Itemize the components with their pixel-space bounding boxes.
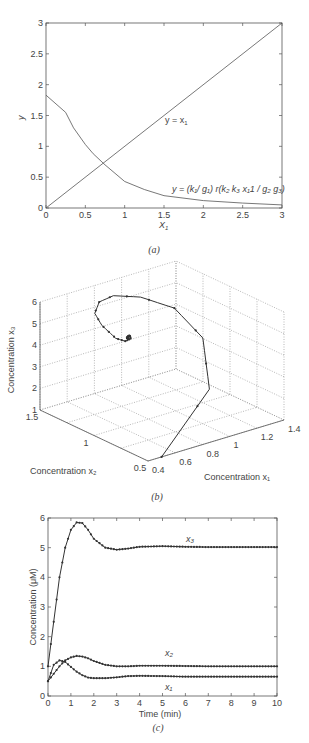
svg-text:0: 0 — [38, 203, 43, 213]
chart-c-xlabel: Time (min) — [139, 709, 182, 719]
svg-text:3: 3 — [279, 210, 284, 220]
chart-a-xlabel: X1 — [158, 220, 168, 231]
svg-text:1.4: 1.4 — [288, 424, 301, 434]
svg-text:1.2: 1.2 — [261, 432, 274, 442]
chart-c-label-x3: x₃ — [185, 534, 195, 544]
svg-text:1: 1 — [38, 141, 43, 151]
chart-c: 0123456789100123456 x₃ x₂ x₁ Concentrati… — [28, 513, 282, 734]
svg-text:0: 0 — [40, 691, 45, 701]
svg-text:0.5: 0.5 — [79, 210, 92, 220]
svg-text:0.5: 0.5 — [30, 172, 43, 182]
svg-text:5: 5 — [40, 543, 45, 553]
svg-text:0.5: 0.5 — [134, 463, 147, 473]
chart-a-caption: (a) — [148, 244, 160, 256]
chart-a-curve-label: y = (k₁/ g₁) r(k₂ k₃ x₁1 / g₂ g₃) — [171, 184, 285, 194]
svg-text:2: 2 — [201, 210, 206, 220]
svg-text:6: 6 — [32, 297, 37, 307]
svg-text:3: 3 — [38, 18, 43, 28]
chart-b-ylabel: Concentration x₂ — [30, 466, 97, 476]
svg-text:0.6: 0.6 — [179, 457, 192, 467]
svg-text:5: 5 — [160, 698, 165, 708]
svg-text:2.5: 2.5 — [30, 49, 43, 59]
svg-text:4: 4 — [137, 698, 142, 708]
svg-text:8: 8 — [229, 698, 234, 708]
svg-text:10: 10 — [272, 698, 282, 708]
chart-b-caption: (b) — [151, 491, 163, 503]
chart-b-zlabel: Concentration x₃ — [6, 326, 16, 393]
svg-text:2: 2 — [38, 80, 43, 90]
chart-c-ticks: 0123456789100123456 — [40, 513, 282, 708]
chart-a-ylabel: y — [16, 115, 26, 121]
chart-b-3d: 0.40.60.811.21.40.511.5123456 Concentrat… — [6, 261, 301, 503]
chart-b-xlabel: Concentration x₁ — [204, 472, 270, 482]
svg-text:7: 7 — [206, 698, 211, 708]
svg-text:1: 1 — [32, 405, 37, 415]
chart-b-trajectory — [95, 296, 210, 457]
svg-text:1: 1 — [83, 438, 88, 448]
svg-text:2: 2 — [91, 698, 96, 708]
svg-text:5: 5 — [32, 319, 37, 329]
svg-text:2.5: 2.5 — [236, 210, 249, 220]
chart-a: 00.511.522.5300.511.522.53 y = x1 y = (k… — [16, 18, 285, 256]
chart-a-line-label: y = x1 — [165, 115, 188, 126]
svg-text:0: 0 — [43, 210, 48, 220]
chart-c-frame — [48, 518, 277, 696]
svg-text:6: 6 — [40, 513, 45, 523]
chart-c-label-x2: x₂ — [164, 648, 174, 658]
svg-text:0.8: 0.8 — [206, 449, 219, 459]
svg-text:2: 2 — [40, 632, 45, 642]
svg-text:4: 4 — [40, 572, 45, 582]
svg-text:2: 2 — [32, 383, 37, 393]
svg-text:1.5: 1.5 — [30, 111, 43, 121]
chart-c-series — [47, 521, 278, 682]
svg-text:1: 1 — [234, 440, 239, 450]
svg-text:3: 3 — [40, 602, 45, 612]
svg-text:0.4: 0.4 — [152, 465, 165, 475]
svg-text:1: 1 — [122, 210, 127, 220]
svg-text:3: 3 — [114, 698, 119, 708]
svg-text:1.5: 1.5 — [158, 210, 171, 220]
figure-canvas: 00.511.522.5300.511.522.53 y = x1 y = (k… — [0, 0, 309, 743]
chart-c-ylabel: Concentration (μM) — [28, 568, 38, 645]
chart-a-identity-line — [46, 23, 282, 208]
svg-text:1: 1 — [40, 661, 45, 671]
svg-text:0: 0 — [45, 698, 50, 708]
svg-text:9: 9 — [252, 698, 257, 708]
chart-b-grid: 0.40.60.811.21.40.511.5123456 — [26, 261, 301, 475]
svg-text:1: 1 — [68, 698, 73, 708]
chart-c-label-x1: x₁ — [164, 682, 173, 692]
chart-c-caption: (c) — [152, 722, 164, 734]
svg-text:3: 3 — [32, 362, 37, 372]
svg-text:6: 6 — [183, 698, 188, 708]
svg-text:4: 4 — [32, 340, 37, 350]
